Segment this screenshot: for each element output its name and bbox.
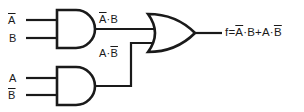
output-expression-part-1: f= — [225, 26, 235, 38]
and-gate-top — [57, 10, 95, 48]
signal-label-and-top-part-2: ·B — [107, 13, 118, 25]
signal-label-and-bottom-part-2: B — [110, 47, 118, 59]
input-label-b-bar: B — [8, 90, 16, 101]
input-label-a-bar: A — [8, 15, 16, 26]
logic-circuit-diagram: A B A B A·B A·B f=A·B+A·B — [0, 0, 304, 112]
input-label-b: B — [9, 33, 17, 44]
signal-label-and-bottom-part-1: A· — [99, 47, 110, 59]
signal-label-and-top-part-1: A — [99, 13, 107, 25]
input-label-b-text: B — [9, 32, 17, 44]
input-label-a-text: A — [9, 72, 17, 84]
output-expression-part-3: ·B+A· — [243, 26, 274, 38]
signal-label-and-top-output: A·B — [99, 14, 118, 25]
and-gate-bottom — [57, 67, 95, 105]
output-expression: f=A·B+A·B — [225, 27, 282, 39]
input-label-b-bar-text: B — [8, 89, 16, 101]
input-label-a: A — [9, 73, 17, 84]
signal-label-and-bottom-output: A·B — [99, 48, 118, 59]
output-expression-part-4: B — [274, 26, 282, 38]
or-gate — [148, 14, 195, 52]
output-expression-part-2: A — [235, 26, 243, 38]
circuit-schematic-canvas — [0, 0, 304, 112]
input-label-a-bar-text: A — [8, 14, 16, 26]
